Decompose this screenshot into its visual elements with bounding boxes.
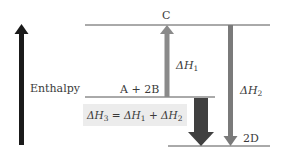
delta-h2-subscript: 2 (258, 89, 263, 98)
equation-equals: = (109, 109, 124, 121)
level-label-2d: 2D (243, 133, 259, 145)
enthalpy-diagram (0, 0, 283, 155)
equation: ΔH3 = ΔH1 + ΔH2 (87, 109, 183, 125)
delta-h1-arrow-icon (160, 25, 174, 97)
delta-h2-symbol: ΔH (240, 84, 258, 97)
level-label-a-2b: A + 2B (120, 84, 159, 96)
delta-h1-symbol: ΔH (176, 59, 194, 72)
delta-h3-arrow-icon (188, 98, 214, 146)
delta-h1-subscript: 1 (194, 64, 199, 73)
level-label-c: C (162, 10, 170, 22)
equation-term1: ΔH (124, 109, 141, 121)
equation-plus: + (146, 109, 161, 121)
delta-h1-label: ΔH1 (176, 60, 198, 75)
enthalpy-axis-arrow-icon (15, 24, 29, 145)
delta-h2-arrow-icon (224, 25, 238, 146)
equation-term2: ΔH (161, 109, 178, 121)
delta-h2-label: ΔH2 (240, 85, 262, 100)
enthalpy-axis-label: Enthalpy (30, 83, 80, 95)
equation-lhs: ΔH (87, 109, 104, 121)
equation-term2-sub: 2 (178, 114, 183, 123)
